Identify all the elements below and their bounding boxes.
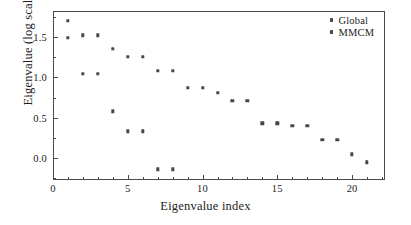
x-axis-tick-label: 0	[50, 183, 55, 194]
y-axis-tick	[53, 118, 58, 119]
x-axis-minor-tick	[158, 177, 159, 180]
chart-legend: Global MMCM	[330, 14, 374, 38]
legend-item-global: Global	[330, 14, 374, 26]
y-axis-minor-tick	[53, 98, 56, 99]
x-axis-minor-tick	[143, 177, 144, 180]
x-axis-minor-tick	[247, 177, 248, 180]
y-axis-minor-tick	[53, 178, 56, 179]
y-axis-tick	[53, 37, 58, 38]
x-axis-minor-tick	[188, 177, 189, 180]
x-axis-tick	[203, 175, 204, 180]
x-axis-minor-tick	[218, 177, 219, 180]
x-axis-tick	[277, 175, 278, 180]
x-axis-minor-tick	[113, 177, 114, 180]
y-axis-label: Eigenvalue (log scale)	[21, 0, 36, 133]
x-axis-tick-label: 10	[197, 183, 208, 194]
x-axis-minor-tick	[173, 177, 174, 180]
y-axis-tick-label: 0.0	[33, 153, 47, 164]
x-axis-label: Eigenvalue index	[0, 199, 411, 214]
x-axis-tick-label: 20	[347, 183, 358, 194]
x-axis-minor-tick	[382, 177, 383, 180]
legend-label-global: Global	[338, 15, 368, 26]
y-axis-tick	[53, 77, 58, 78]
legend-marker-icon-mmcm	[330, 30, 333, 33]
x-axis-tick	[352, 175, 353, 180]
x-axis-minor-tick	[337, 177, 338, 180]
x-axis-minor-tick	[307, 177, 308, 180]
x-axis-minor-tick	[367, 177, 368, 180]
legend-label-mmcm: MMCM	[338, 27, 374, 38]
x-axis-minor-tick	[322, 177, 323, 180]
x-axis-minor-tick	[232, 177, 233, 180]
x-axis-minor-tick	[68, 177, 69, 180]
legend-item-mmcm: MMCM	[330, 26, 374, 38]
x-axis-tick	[128, 175, 129, 180]
y-axis-tick	[53, 158, 58, 159]
x-axis-minor-tick	[83, 177, 84, 180]
legend-marker-icon-global	[330, 18, 333, 21]
y-axis-minor-tick	[53, 57, 56, 58]
x-axis-tick-label: 5	[125, 183, 130, 194]
x-axis-minor-tick	[98, 177, 99, 180]
x-axis-tick-label: 15	[272, 183, 283, 194]
scatter-chart-figure: 051015200.00.51.01.5 Eigenvalue index Ei…	[0, 0, 411, 225]
x-axis-minor-tick	[262, 177, 263, 180]
y-axis-minor-tick	[53, 138, 56, 139]
y-axis-minor-tick	[53, 17, 56, 18]
x-axis-minor-tick	[292, 177, 293, 180]
